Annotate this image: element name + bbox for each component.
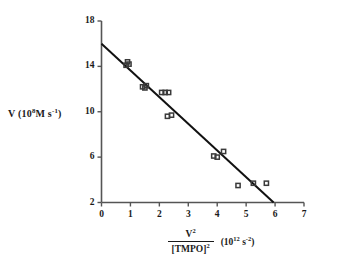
x-axis-label-denominator: [TMPO]2 bbox=[168, 242, 214, 255]
x-axis-denominator-exponent: 2 bbox=[206, 242, 209, 249]
data-point-marker bbox=[221, 149, 225, 153]
x-axis-tick-label: 3 bbox=[186, 210, 191, 220]
y-axis-label-suffix: ) bbox=[58, 108, 62, 119]
data-point-marker bbox=[236, 183, 240, 187]
data-point-marker bbox=[215, 155, 219, 159]
y-axis-tick-label: 6 bbox=[90, 152, 95, 162]
data-point-marker bbox=[264, 181, 268, 185]
figure-container: 2610141801234567 V (108M s-1) V2 [TMPO]2… bbox=[0, 0, 338, 269]
x-axis-label-units: (1012 s-2) bbox=[221, 236, 255, 248]
x-axis-tick-label: 2 bbox=[157, 210, 162, 220]
x-axis-units-exponent: 12 bbox=[233, 235, 239, 242]
x-axis-numerator-exponent: 2 bbox=[192, 227, 195, 234]
x-axis-tick-label: 0 bbox=[99, 210, 104, 220]
x-axis-tick-label: 6 bbox=[273, 210, 278, 220]
axes-group bbox=[102, 21, 305, 203]
x-axis-label-fraction: V2 [TMPO]2 bbox=[168, 228, 214, 255]
data-points-group bbox=[124, 60, 269, 188]
x-axis-tick-label: 7 bbox=[302, 210, 307, 220]
x-axis-tick-label: 5 bbox=[244, 210, 249, 220]
y-axis-label-prefix: V (10 bbox=[8, 108, 32, 119]
y-axis-tick-label: 14 bbox=[85, 62, 95, 72]
y-axis-label-mid: M s bbox=[35, 108, 51, 119]
y-axis-tick-label: 2 bbox=[90, 198, 95, 208]
y-axis-label: V (108M s-1) bbox=[8, 108, 90, 119]
x-axis-tick-label: 1 bbox=[128, 210, 133, 220]
y-axis-tick-label: 18 bbox=[85, 16, 95, 26]
data-point-marker bbox=[169, 113, 173, 117]
x-axis-label: V2 [TMPO]2 (1012 s-2) bbox=[96, 228, 326, 255]
x-axis-tick-label: 4 bbox=[215, 210, 220, 220]
x-axis-label-numerator: V2 bbox=[182, 228, 200, 241]
data-point-marker bbox=[167, 90, 171, 94]
